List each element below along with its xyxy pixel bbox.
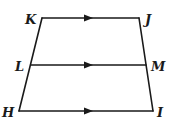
parallel-arrow-hi-icon [84,108,93,115]
vertex-label-j: J [142,12,152,27]
vertex-label-h: H [1,105,15,120]
vertex-label-k: K [24,12,37,27]
parallel-arrow-lm-icon [84,62,93,69]
vertex-label-i: I [156,105,164,120]
vertex-label-m: M [150,59,166,74]
diagram-canvas: K J L M H I [0,0,171,127]
parallel-arrow-kj-icon [84,15,93,22]
vertex-label-l: L [14,59,24,74]
trapezoid-diagram: K J L M H I [0,0,171,127]
